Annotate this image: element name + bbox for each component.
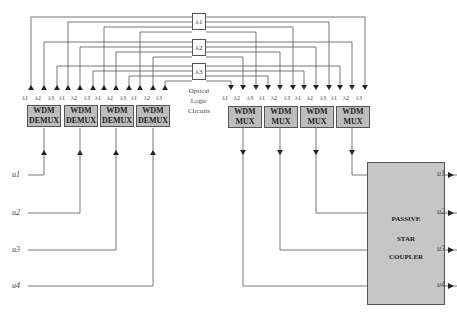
lambda-label: λ3 [320,95,326,101]
mux-block-3: WDMMUX [300,106,334,128]
logic-box-lambda3: λ3 [192,63,206,80]
lambda-label: λ3 [356,95,362,101]
lambda-label: λ2 [307,95,313,101]
lambda-label: λ2 [271,95,277,101]
input-label-u4: u4 [12,281,20,290]
lambda-label: λ3 [84,95,90,101]
demux-block-1: WDMDEMUX [27,105,61,127]
lambda-label: λ1 [95,95,101,101]
lambda-label: λ1 [259,95,265,101]
lambda-label: λ3 [156,95,162,101]
lambda-label: λ2 [144,95,150,101]
diagram-canvas: λ1 λ2 λ3 Optical Logic Circuits WDMDEMUX… [0,0,457,313]
lambda-label: λ2 [234,95,240,101]
logic-box-lambda2: λ2 [192,39,206,56]
demux-block-4: WDMDEMUX [136,105,170,127]
lambda-label: λ3 [48,95,54,101]
mux-block-1: WDMMUX [228,106,262,128]
lambda-label: λ1 [295,95,301,101]
lambda-label: λ2 [71,95,77,101]
lambda-label: λ1 [22,95,28,101]
output-label-u4: u4 [437,280,445,289]
lambda-label: λ2 [35,95,41,101]
lambda-label: λ3 [120,95,126,101]
output-label-u1: u1 [437,169,445,178]
lambda-label: λ1 [131,95,137,101]
mux-block-2: WDMMUX [264,106,298,128]
output-label-u2: u2 [437,207,445,216]
lambda-label: λ1 [331,95,337,101]
demux-block-2: WDMDEMUX [64,105,98,127]
lambda-label: λ2 [107,95,113,101]
input-label-u1: u1 [12,170,20,179]
lambda-label: λ1 [222,95,228,101]
lambda-label: λ3 [284,95,290,101]
input-label-u2: u2 [12,208,20,217]
logic-box-lambda1: λ1 [192,13,206,30]
input-label-u3: u3 [12,245,20,254]
lambda-label: λ1 [59,95,65,101]
mux-block-4: WDMMUX [336,106,370,128]
demux-block-3: WDMDEMUX [100,105,134,127]
logic-caption: Optical Logic Circuits [179,86,219,116]
lambda-label: λ3 [247,95,253,101]
lambda-label: λ2 [343,95,349,101]
passive-star-coupler: PASSIVE STAR COUPLER [367,162,445,305]
output-label-u3: u3 [437,244,445,253]
